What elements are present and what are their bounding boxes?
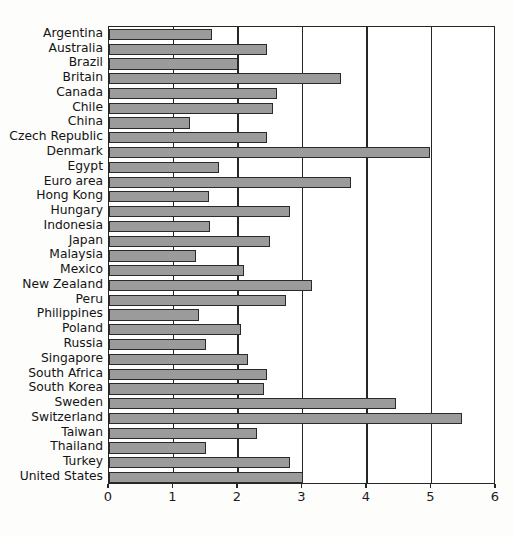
category-label: South Korea (28, 382, 103, 393)
category-label: Britain (63, 72, 103, 83)
bar-row (109, 339, 496, 350)
x-tick-label: 3 (297, 489, 305, 504)
bar (109, 236, 270, 247)
category-label: Peru (76, 294, 103, 305)
bar-row (109, 132, 496, 143)
category-label: Malaysia (49, 249, 103, 260)
category-label: Thailand (50, 441, 103, 452)
x-tick-label: 5 (426, 489, 434, 504)
category-label: Philippines (37, 308, 103, 319)
bar (109, 103, 273, 114)
bar (109, 250, 196, 261)
category-axis-labels: ArgentinaAustraliaBrazilBritainCanadaChi… (0, 26, 103, 484)
bar (109, 457, 290, 468)
category-label: South Africa (28, 368, 103, 379)
bar-row (109, 103, 496, 114)
bar-row (109, 177, 496, 188)
x-tick-label: 0 (104, 489, 112, 504)
bar (109, 29, 212, 40)
bar-row (109, 280, 496, 291)
category-label: China (68, 116, 103, 127)
bar-row (109, 29, 496, 40)
bar-row (109, 354, 496, 365)
tick-mark-4 (365, 484, 366, 488)
tick-mark-3 (301, 484, 302, 488)
bar-row (109, 324, 496, 335)
tick-mark-5 (430, 484, 431, 488)
bar (109, 383, 264, 394)
bar-row (109, 73, 496, 84)
category-label: Switzerland (31, 412, 103, 423)
bar (109, 73, 341, 84)
bar (109, 221, 210, 232)
bar-row (109, 221, 496, 232)
tick-mark-0 (107, 484, 108, 488)
category-label: Hong Kong (36, 190, 103, 201)
category-label: Japan (69, 235, 103, 246)
bar (109, 280, 312, 291)
bar (109, 44, 267, 55)
category-label: Mexico (60, 264, 103, 275)
bar (109, 132, 267, 143)
bar-row (109, 250, 496, 261)
bar (109, 472, 303, 483)
x-tick-label: 4 (362, 489, 370, 504)
bar-row (109, 428, 496, 439)
bar-row (109, 295, 496, 306)
bar (109, 191, 209, 202)
bar-row (109, 147, 496, 158)
category-label: Canada (56, 87, 103, 98)
bar (109, 309, 199, 320)
bar (109, 88, 277, 99)
bar-row (109, 265, 496, 276)
bar-chart: ArgentinaAustraliaBrazilBritainCanadaChi… (0, 0, 513, 537)
bar (109, 354, 248, 365)
x-tick-label: 6 (491, 489, 499, 504)
bar (109, 58, 238, 69)
bar (109, 428, 257, 439)
category-label: New Zealand (22, 279, 103, 290)
bar-row (109, 206, 496, 217)
bar-row (109, 88, 496, 99)
category-label: Brazil (69, 57, 103, 68)
bar (109, 162, 219, 173)
tick-mark-2 (236, 484, 237, 488)
bar-row (109, 442, 496, 453)
category-label: Australia (49, 43, 103, 54)
bar (109, 398, 396, 409)
bar-row (109, 236, 496, 247)
category-label: Indonesia (44, 220, 103, 231)
category-label: Hungary (50, 205, 103, 216)
category-label: Argentina (43, 28, 103, 39)
bar (109, 147, 430, 158)
bar-row (109, 191, 496, 202)
bar-row (109, 117, 496, 128)
bar-row (109, 44, 496, 55)
x-tick-label: 1 (168, 489, 176, 504)
bar (109, 442, 206, 453)
bar (109, 177, 351, 188)
bar-row (109, 457, 496, 468)
bar-row (109, 309, 496, 320)
tick-mark-1 (172, 484, 173, 488)
plot-area (108, 26, 495, 484)
bar-row (109, 162, 496, 173)
bar (109, 324, 241, 335)
tick-mark-6 (494, 484, 495, 488)
category-label: United States (20, 471, 103, 482)
category-label: Chile (72, 102, 103, 113)
category-label: Sweden (54, 397, 103, 408)
category-label: Singapore (41, 353, 103, 364)
category-label: Poland (62, 323, 103, 334)
bar (109, 117, 190, 128)
category-label: Taiwan (61, 427, 103, 438)
bar (109, 295, 286, 306)
category-label: Euro area (44, 176, 103, 187)
bar-row (109, 398, 496, 409)
bar-row (109, 413, 496, 424)
x-tick-label: 2 (233, 489, 241, 504)
category-label: Russia (63, 338, 103, 349)
bar-row (109, 58, 496, 69)
bar (109, 413, 462, 424)
category-label: Denmark (46, 146, 103, 157)
